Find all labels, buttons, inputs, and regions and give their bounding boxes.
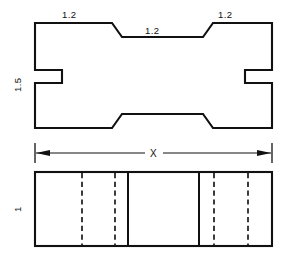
dimension-label-overall-width: X xyxy=(150,148,157,159)
dimension-label-bottom-height: 1 xyxy=(12,206,23,212)
plan-view-outline xyxy=(35,172,272,246)
arrowhead-left xyxy=(36,150,50,156)
dimension-label-top-center: 1.2 xyxy=(145,25,159,36)
specimen-outline-top-view xyxy=(35,23,272,128)
dimension-label-top-right: 1.2 xyxy=(218,9,232,20)
dimension-label-top-left: 1.2 xyxy=(62,9,76,20)
technical-drawing-canvas: 1.2 1.2 1.2 1.5 X 1 xyxy=(0,0,308,262)
engineering-drawing-svg: 1.2 1.2 1.2 1.5 X 1 xyxy=(0,0,308,262)
dimension-label-left-height: 1.5 xyxy=(12,78,23,92)
arrowhead-right xyxy=(257,150,271,156)
